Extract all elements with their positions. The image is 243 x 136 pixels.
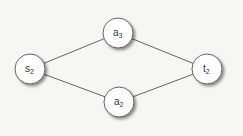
node-a2-sub: 2 [120, 101, 124, 108]
node-t2: t2 [192, 54, 222, 84]
node-a3: a3 [103, 18, 133, 48]
node-a3-sub: 3 [119, 32, 123, 39]
graph-diagram: s2 a3 a2 t2 [0, 0, 243, 136]
node-a2: a2 [104, 87, 134, 117]
node-s2-sub: 2 [30, 68, 34, 75]
node-s2: s2 [15, 54, 45, 84]
node-t2-sub: 2 [206, 68, 210, 75]
